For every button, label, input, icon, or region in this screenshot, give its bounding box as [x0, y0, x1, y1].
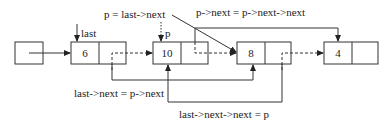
node-8-value: 8 [248, 47, 254, 59]
linked-list-diagram: 6 10 8 4 last p p = last->next p->next =… [0, 0, 387, 129]
annotation-p-assign: p = last->next [104, 8, 165, 20]
annotation-p-next-assign: p->next = p->next->next [196, 6, 305, 18]
arrow-8-to-10-solid [168, 64, 282, 102]
node-6-value: 6 [82, 47, 88, 59]
node-4-value: 4 [335, 47, 341, 59]
annotation-last-next-next-assign: last->next->next = p [179, 108, 270, 120]
last-pointer-label: last [81, 27, 96, 39]
arrow-6-to-8-solid [112, 64, 253, 80]
annotation-last-next-assign: last->next = p->next [74, 87, 164, 99]
p-pointer-label: p [165, 27, 171, 39]
node-4: 4 [324, 42, 378, 64]
arrow-10-to-4-solid [195, 28, 338, 42]
node-10-value: 10 [162, 47, 174, 59]
